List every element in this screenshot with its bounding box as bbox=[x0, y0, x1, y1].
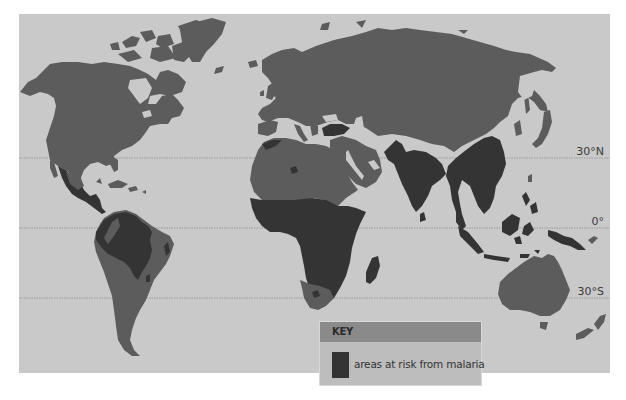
key-title: KEY bbox=[332, 326, 353, 337]
latitude-label-30s: 30°S bbox=[578, 285, 604, 298]
world-map-graphic bbox=[19, 14, 610, 373]
latitude-label-equator: 0° bbox=[592, 215, 605, 228]
map-key: KEY areas at risk from malaria bbox=[320, 322, 481, 385]
malaria-risk-swatch bbox=[332, 352, 349, 378]
key-header: KEY bbox=[320, 322, 481, 342]
latitude-label-30n: 30°N bbox=[576, 145, 604, 158]
world-map: 30°N 0° 30°S bbox=[19, 14, 610, 373]
key-item-label: areas at risk from malaria bbox=[354, 358, 485, 370]
